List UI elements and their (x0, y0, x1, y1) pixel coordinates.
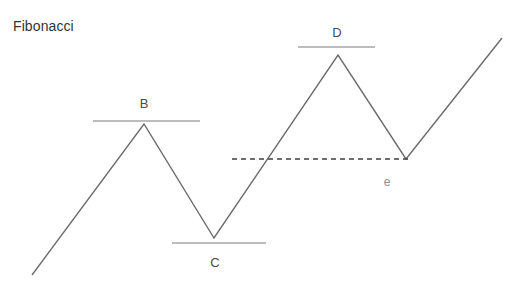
wave-chart-svg (0, 0, 528, 294)
price-zigzag-polyline (32, 38, 502, 275)
pivot-label-d: D (332, 25, 341, 40)
pivot-label-c: C (210, 255, 219, 270)
pivot-label-b: B (140, 96, 149, 111)
pivot-label-e: e (384, 175, 391, 189)
fibonacci-diagram-canvas: Fibonacci B C D e (0, 0, 528, 294)
